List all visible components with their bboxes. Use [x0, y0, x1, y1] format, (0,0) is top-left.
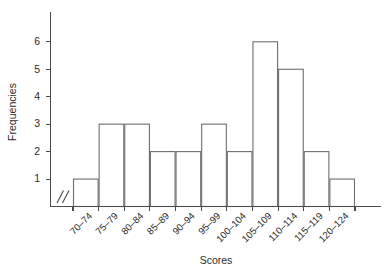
y-axis-tick-label: 4 [34, 90, 40, 102]
histogram-bar [74, 179, 99, 206]
histogram-bar [330, 179, 355, 206]
y-axis-tick-label: 1 [34, 172, 40, 184]
histogram-bar [176, 152, 201, 207]
histogram-bar [125, 124, 150, 206]
x-axis-title: Scores [200, 254, 233, 266]
y-axis-tick-label: 5 [34, 63, 40, 75]
axis-break-icon [57, 191, 69, 204]
x-axis-tick-label: 90–94 [170, 210, 197, 237]
histogram-bar [227, 152, 252, 207]
x-axis-tick-label: 75–79 [93, 210, 120, 237]
y-axis-tick-label: 2 [34, 145, 40, 157]
histogram-figure: 123456 70–7475–7980–8485–8990–9495–99100… [0, 0, 389, 274]
y-axis-tick-label: 6 [34, 35, 40, 47]
histogram-plot: 123456 70–7475–7980–8485–8990–9495–99100… [0, 0, 389, 274]
histogram-bar [150, 152, 175, 207]
histogram-bar [202, 124, 227, 206]
y-axis-ticks-group [46, 42, 51, 179]
y-axis-tick-label: 3 [34, 117, 40, 129]
x-axis-tick-label: 85–89 [144, 210, 171, 237]
x-axis-tick-label: 80–84 [119, 210, 146, 237]
histogram-bar [304, 152, 329, 207]
bars-group [74, 42, 355, 207]
y-axis-title: Frequencies [6, 83, 18, 141]
x-axis-tick-label: 70–74 [68, 210, 95, 237]
histogram-bar [99, 124, 124, 206]
histogram-bar [253, 42, 278, 207]
histogram-bar [279, 69, 304, 206]
x-axis-tick-labels: 70–7475–7980–8485–8990–9495–99100–104105… [68, 210, 351, 245]
y-axis-tick-labels: 123456 [34, 35, 40, 184]
